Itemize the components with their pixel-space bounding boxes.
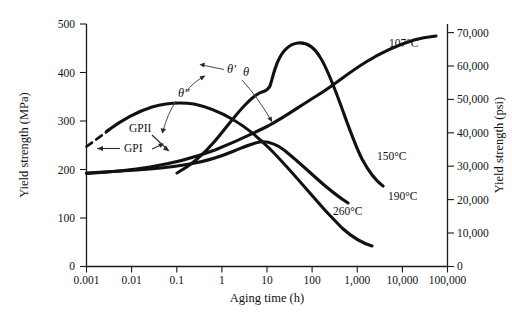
annotation-theta-prime: θ′ [200,62,237,76]
y-left-tick-labels: 0 100 200 300 400 500 [58,18,76,272]
y-left-tick-label-200: 200 [58,164,76,176]
x-tick-label-0-01: 0.01 [122,274,142,286]
y-left-tick-label-0: 0 [69,260,75,272]
y-left-ticks [80,24,87,267]
annotation-theta-label: θ [243,65,249,79]
annotation-theta-double-prime-label: θ′′ [178,86,190,100]
curve-label-260C: 260°C [333,205,363,217]
x-tick-label-100: 100 [303,274,321,286]
x-tick-label-1: 1 [219,274,225,286]
y-right-tick-label-20000: 20,000 [457,194,489,207]
x-tick-label-100000: 100,000 [429,274,467,287]
chart-svg: 0 100 200 300 400 500 0 10,000 20,000 30… [0,0,512,316]
curve-label-190C: 190°C [388,190,418,202]
x-axis-title: Aging time (h) [230,291,304,305]
x-tick-label-10: 10 [261,274,273,286]
series-curve-150C-dashed-lead [87,130,110,147]
x-ticks [87,267,448,273]
curve-label-150C: 150°C [377,150,407,162]
curve-label-107C: 107°C [389,37,419,49]
y-right-ticks [448,33,455,267]
y-right-tick-label-70000: 70,000 [457,27,489,40]
y-left-tick-label-400: 400 [58,67,76,79]
x-tick-label-0-1: 0.1 [170,274,185,286]
y-left-tick-label-100: 100 [58,212,76,224]
y-right-tick-label-0: 0 [457,260,463,272]
y-right-axis-title: Yield strength (psi) [492,97,506,194]
y-left-axis-title: Yield strength (MPa) [17,92,31,198]
series-curve-190C [177,43,383,186]
annotation-gp1: GPI [97,142,164,154]
y-left-tick-label-500: 500 [58,18,76,30]
x-tick-labels: 0.001 0.01 0.1 1 10 100 1,000 10,000 100… [74,274,467,287]
y-left-tick-label-300: 300 [58,115,76,127]
annotation-theta-prime-label: θ′ [227,62,236,76]
chart-figure: 0 100 200 300 400 500 0 10,000 20,000 30… [0,0,512,316]
y-right-tick-label-60000: 60,000 [457,60,489,73]
x-tick-label-1000: 1,000 [344,274,370,287]
y-right-tick-label-50000: 50,000 [457,93,489,106]
y-right-tick-label-30000: 30,000 [457,160,489,173]
annotation-gp2-label: GPII [129,122,152,134]
annotation-gp1-label: GPI [124,142,143,154]
x-tick-label-10000: 10,000 [387,274,419,287]
y-right-tick-label-10000: 10,000 [457,227,489,240]
x-tick-label-0-001: 0.001 [74,274,100,286]
y-right-tick-label-40000: 40,000 [457,127,489,140]
y-right-tick-labels: 0 10,000 20,000 30,000 40,000 50,000 60,… [457,27,489,272]
